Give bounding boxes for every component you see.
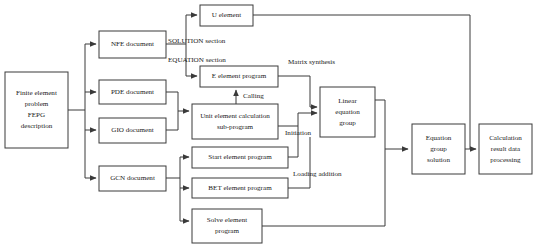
flowchart-canvas: Finite elementproblemFEPGdescriptionNFE … [0, 0, 537, 250]
e-element-program-box[interactable]: E element program [200, 66, 278, 87]
finite-element-problem-box-label-line: FEPG [28, 111, 45, 119]
flowchart-diagram: Finite elementproblemFEPGdescriptionNFE … [0, 0, 537, 250]
u-element-box[interactable]: U element [200, 5, 253, 26]
edge-label-initiation: Initiation [285, 129, 311, 137]
solve-element-program-box[interactable]: Solve elementprogram [192, 209, 262, 243]
edge-unit-element-to-linear-initiation [278, 113, 317, 126]
bet-element-program-box-label-line: BET element program [208, 184, 272, 192]
finite-element-problem-box-label-line: problem [25, 100, 49, 108]
linear-equation-group-box-label-line: Linear [338, 97, 357, 105]
edge-label-matrix-synthesis: Matrix synthesis [288, 58, 335, 66]
edge-bet-element-to-linear-loading [288, 137, 310, 188]
edge-label-loading-addition: Loading addition [293, 170, 342, 178]
gio-document-box-label-line: GIO document [111, 126, 153, 134]
equation-group-solution-box-label-line: Equation [426, 134, 452, 142]
edge-label-solution-section: SOLUTION section [168, 37, 226, 45]
start-element-program-box-label-line: Start element program [208, 153, 272, 161]
finite-element-problem-box-label-line: Finite element [16, 89, 57, 97]
finite-element-problem-box[interactable]: Finite elementproblemFEPGdescription [5, 72, 68, 148]
finite-element-problem-box-label-line: description [21, 122, 53, 130]
e-element-program-box-label-line: E element program [212, 72, 267, 80]
edge-label-equation-section: EQUATION section [168, 56, 226, 64]
calculation-result-data-processing-box-label-line: result data [491, 145, 521, 153]
unit-element-calculation-sub-program-box[interactable]: Unit element calculationsub-program [192, 104, 278, 139]
linear-equation-group-box[interactable]: Linearequationgroup [320, 87, 375, 137]
pde-document-box[interactable]: PDE document [99, 80, 166, 104]
edge-linear-equation-to-equation-group [375, 100, 385, 149]
calculation-result-data-processing-box-label-line: Calculation [489, 134, 522, 142]
edge-label-calling: Calling [243, 92, 264, 100]
gcn-document-box-label-line: GCN document [110, 174, 155, 182]
equation-group-solution-box-label-line: group [430, 145, 447, 153]
calculation-result-data-processing-box[interactable]: Calculationresult dataprocessing [479, 124, 532, 174]
edge-e-element-to-linear-equation [278, 76, 317, 107]
unit-element-calculation-sub-program-box-label-line: sub-program [217, 123, 254, 131]
gio-document-box[interactable]: GIO document [99, 118, 166, 143]
edge-pde-gio-merge [166, 92, 178, 130]
solve-element-program-box-label-line: program [215, 227, 240, 235]
bet-element-program-box[interactable]: BET element program [192, 178, 288, 198]
gcn-document-box[interactable]: GCN document [99, 166, 166, 191]
solve-element-program-box-rect[interactable] [192, 209, 262, 243]
equation-group-solution-box[interactable]: Equationgroupsolution [412, 124, 465, 174]
equation-group-solution-box-label-line: solution [427, 156, 450, 164]
u-element-box-label-line: U element [212, 11, 241, 19]
nodes-layer: Finite elementproblemFEPGdescriptionNFE … [5, 5, 532, 243]
solve-element-program-box-label-line: Solve element [207, 216, 247, 224]
calculation-result-data-processing-box-label-line: processing [490, 156, 521, 164]
unit-element-calculation-sub-program-box-label-line: Unit element calculation [200, 112, 270, 120]
finite-element-problem-box-rect[interactable] [5, 72, 68, 148]
linear-equation-group-box-label-line: group [339, 119, 356, 127]
linear-equation-group-box-label-line: equation [335, 108, 360, 116]
nfe-document-box[interactable]: NFE document [99, 31, 166, 58]
unit-element-calculation-sub-program-box-rect[interactable] [192, 104, 278, 139]
nfe-document-box-label-line: NFE document [111, 40, 154, 48]
pde-document-box-label-line: PDE document [111, 88, 154, 96]
start-element-program-box[interactable]: Start element program [192, 147, 288, 168]
